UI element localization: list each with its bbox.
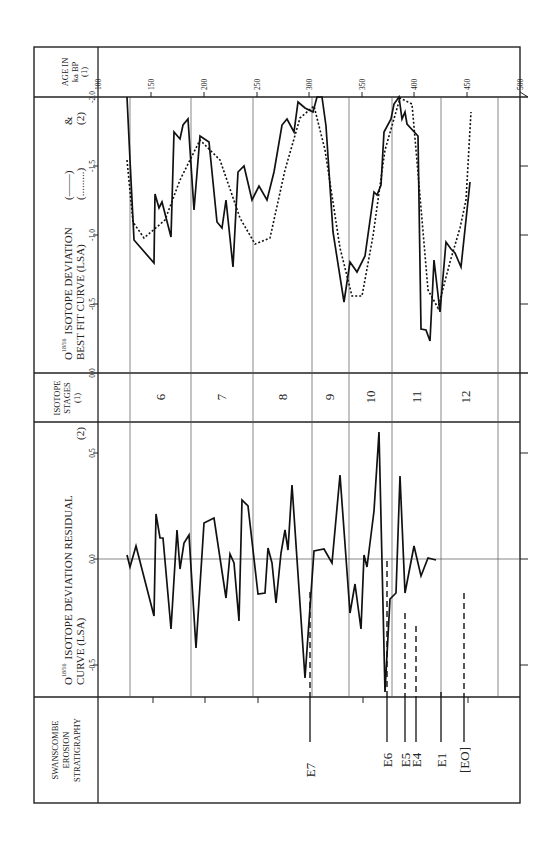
svg-text:0.0: 0.0 — [88, 554, 97, 564]
age-tick-labels: 100 150 200 250 300 350 400 450 500 — [94, 79, 525, 91]
svg-text:-1.5: -1.5 — [88, 160, 97, 172]
age-header: AGE IN ka BP (1) — [60, 58, 89, 87]
svg-text:-0.5: -0.5 — [88, 659, 97, 671]
svg-text:CURVE (LSA): CURVE (LSA) — [74, 617, 87, 685]
svg-text:STAGES: STAGES — [62, 382, 72, 414]
stage-label-7: 7 — [214, 393, 229, 400]
value-axis-ticks — [520, 166, 528, 665]
erosion-label-e1: E1 — [434, 753, 449, 767]
stage-label-11: 11 — [409, 391, 424, 404]
svg-text:0.5: 0.5 — [88, 448, 97, 458]
erosion-marker-lines — [310, 697, 464, 742]
stages-header: ISOTOPE STAGES (1) — [52, 381, 82, 416]
stage-label-10: 10 — [363, 391, 378, 404]
erosion-label-e4: E4 — [409, 752, 424, 767]
chart-frame — [34, 47, 520, 803]
svg-text:300: 300 — [305, 79, 314, 91]
svg-text:(2): (2) — [74, 427, 87, 440]
svg-text:(2): (2) — [74, 112, 87, 125]
stage-labels: 6 7 8 9 10 11 12 — [153, 391, 473, 404]
svg-text:-2.0: -2.0 — [88, 91, 97, 103]
residual-curve — [127, 432, 436, 692]
bestfit-header: O18/16ISOTOPE DEVIATION BEST FIT CURVE (… — [61, 112, 87, 360]
svg-text:SWANSCOMBE: SWANSCOMBE — [50, 720, 60, 779]
svg-text:450: 450 — [463, 79, 472, 91]
svg-text:0.0: 0.0 — [88, 368, 97, 378]
erosion-label-e6: E6 — [380, 752, 395, 767]
erosion-label-e7: E7 — [303, 762, 318, 777]
svg-text:150: 150 — [147, 79, 156, 91]
residual-tick-labels: 0.5 0.0 -0.5 — [88, 448, 97, 671]
svg-text:100: 100 — [94, 79, 103, 91]
svg-text:-1.0: -1.0 — [88, 229, 97, 241]
age-axis-ticks — [151, 92, 528, 97]
erosion-labels: E7 E6 E5 E4 E1 [EO] — [303, 747, 472, 777]
svg-text:350: 350 — [358, 79, 367, 91]
svg-text:400: 400 — [410, 79, 419, 91]
svg-text:AGE IN: AGE IN — [60, 58, 70, 87]
svg-text:200: 200 — [200, 79, 209, 91]
stage-label-6: 6 — [153, 393, 168, 400]
svg-text:STRATIGRAPHY: STRATIGRAPHY — [72, 718, 82, 782]
svg-text:O18/16ISOTOPE DEVIATION RESIDU: O18/16ISOTOPE DEVIATION RESIDUAL — [61, 495, 74, 685]
stage-label-8: 8 — [275, 394, 290, 401]
svg-text:-0.5: -0.5 — [88, 298, 97, 310]
svg-text:250: 250 — [253, 79, 262, 91]
svg-text:ISOTOPE: ISOTOPE — [52, 381, 62, 416]
svg-text:O18/16ISOTOPE DEVIATION: O18/16ISOTOPE DEVIATION — [61, 227, 74, 360]
erosion-label-eo: [EO] — [457, 747, 472, 773]
stage-boundaries — [130, 97, 498, 697]
isotope-deviation-solid-curve — [127, 97, 470, 341]
stage-label-9: 9 — [322, 394, 337, 401]
legend-dotted: (.........) — [74, 168, 87, 200]
swanscombe-header: SWANSCOMBE EROSION STRATIGRAPHY — [50, 718, 82, 782]
svg-text:(1): (1) — [72, 393, 82, 403]
svg-text:(1): (1) — [79, 67, 89, 77]
residual-header: O18/16ISOTOPE DEVIATION RESIDUAL CURVE (… — [61, 427, 87, 685]
svg-text:EROSION: EROSION — [61, 732, 71, 769]
stage-label-12: 12 — [458, 391, 473, 404]
svg-text:BEST FIT CURVE (LSA): BEST FIT CURVE (LSA) — [74, 244, 87, 360]
isotope-chart: E7 E6 E5 E4 E1 [EO] 6 7 8 9 10 11 12 100… — [0, 0, 557, 844]
svg-text:&: & — [62, 116, 74, 125]
svg-text:500: 500 — [516, 79, 525, 91]
bestfit-tick-labels: -2.0 -1.5 -1.0 -0.5 0.0 — [88, 91, 97, 378]
